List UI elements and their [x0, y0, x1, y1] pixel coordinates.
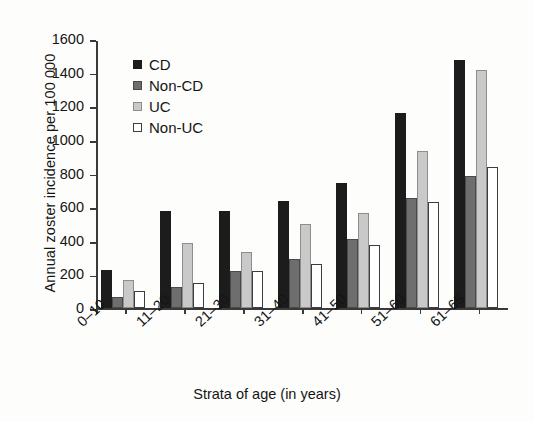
bar-cd-51-60	[395, 113, 406, 309]
zoster-incidence-bar-chart: Annual zoster incidence per 100 000 0200…	[0, 0, 534, 422]
bar-non-uc-21-30	[252, 271, 263, 308]
x-axis-tick-mark	[243, 308, 245, 314]
bar-non-uc-11-20	[193, 283, 204, 308]
y-axis-tick-label: 1400	[52, 65, 84, 81]
bar-non-cd-11-20	[171, 287, 182, 308]
legend-label: UC	[149, 98, 171, 115]
legend-swatch-icon	[133, 81, 142, 90]
legend-item-cd: CD	[133, 54, 203, 75]
legend-label: Non-CD	[149, 77, 203, 94]
y-axis-tick-label: 800	[60, 166, 84, 182]
bar-non-uc-41-50	[369, 245, 380, 309]
x-axis-tick-mark	[302, 308, 304, 314]
bar-non-cd-0-10	[112, 297, 123, 308]
bar-uc-41-50	[358, 213, 369, 308]
x-axis-tick-mark	[479, 308, 481, 314]
bar-uc-31-40	[300, 224, 311, 309]
bar-non-uc-51-60	[428, 202, 439, 309]
legend-swatch-icon	[133, 60, 142, 69]
legend-item-non-cd: Non-CD	[133, 75, 203, 96]
bar-group	[331, 41, 390, 308]
bar-group	[390, 41, 449, 308]
legend-label: Non-UC	[149, 119, 203, 136]
y-axis-tick-label: 400	[60, 233, 84, 249]
bar-non-cd-41-50	[347, 239, 358, 309]
legend-label: CD	[149, 56, 171, 73]
bar-uc-11-20	[182, 243, 193, 309]
legend-swatch-icon	[133, 123, 142, 132]
bar-non-uc-61-65	[487, 167, 498, 308]
x-axis-title: Strata of age (in years)	[0, 386, 534, 402]
bar-group	[449, 41, 508, 308]
x-axis-tick-mark	[184, 308, 186, 314]
x-axis-tick-mark	[125, 308, 127, 314]
x-axis-tick-mark	[361, 308, 363, 314]
bar-cd-61-65	[454, 60, 465, 309]
y-axis-tick-label: 1000	[52, 132, 84, 148]
bar-non-cd-61-65	[465, 176, 476, 308]
y-axis-tick-label: 1600	[52, 31, 84, 47]
y-axis-tick-label: 200	[60, 266, 84, 282]
bar-uc-0-10	[123, 280, 134, 309]
y-axis-tick-label: 1200	[52, 98, 84, 114]
legend-item-uc: UC	[133, 96, 203, 117]
bar-uc-61-65	[476, 70, 487, 309]
bar-uc-21-30	[241, 252, 252, 308]
bar-non-cd-51-60	[406, 198, 417, 308]
y-axis-tick-label: 600	[60, 199, 84, 215]
bar-group	[214, 41, 273, 308]
bar-non-uc-31-40	[311, 264, 322, 309]
bar-group	[273, 41, 332, 308]
legend-swatch-icon	[133, 102, 142, 111]
bar-non-uc-0-10	[134, 291, 145, 309]
legend-item-non-uc: Non-UC	[133, 117, 203, 138]
bar-uc-51-60	[417, 151, 428, 308]
legend: CDNon-CDUCNon-UC	[133, 54, 203, 138]
x-axis-tick-mark	[420, 308, 422, 314]
